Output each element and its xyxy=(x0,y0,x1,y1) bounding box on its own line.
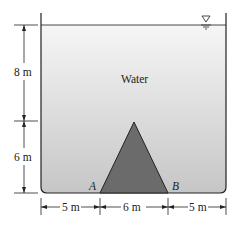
right-width-label: 5 m xyxy=(189,201,207,213)
lower-height-label: 6 m xyxy=(14,151,32,163)
left-width-label: 5 m xyxy=(62,201,80,213)
middle-width-label: 6 m xyxy=(123,201,141,213)
upper-height-label: 8 m xyxy=(14,66,32,78)
water-label: Water xyxy=(121,73,148,85)
point-a-label: A xyxy=(88,180,97,192)
point-b-label: B xyxy=(172,180,179,192)
vertical-dimension xyxy=(14,25,38,193)
tank-diagram: Water A B 8 m 6 m 5 xyxy=(0,0,242,225)
